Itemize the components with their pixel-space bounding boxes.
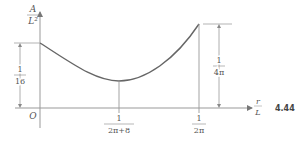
min-tick-den: 2π+8 xyxy=(108,126,130,135)
y-axis-label-den: L² xyxy=(27,16,38,26)
end-tick-den: 2π xyxy=(194,126,204,135)
x-axis-label-num: r xyxy=(256,97,261,106)
left-dim-den: 16 xyxy=(15,77,25,86)
diagram-canvas: A L² O 1 16 1 4π 1 2π+8 1 2π r L 4.44 xyxy=(0,0,299,143)
area-curve xyxy=(40,24,199,81)
figure-number: 4.44 xyxy=(275,104,295,113)
y-axis-label-num: A xyxy=(29,4,37,14)
right-dim-num: 1 xyxy=(216,56,221,65)
x-axis-label-den: L xyxy=(254,108,260,117)
min-tick-num: 1 xyxy=(116,114,121,123)
origin-label: O xyxy=(29,111,37,121)
left-dim-num: 1 xyxy=(17,65,22,74)
right-dim-den: 4π xyxy=(214,68,224,77)
end-tick-num: 1 xyxy=(196,114,201,123)
